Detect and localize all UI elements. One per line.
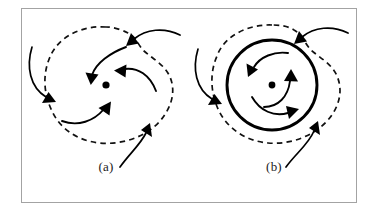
inner-spiral-arrowhead-b-1: [284, 69, 298, 82]
outer-inflow-arrowhead-b-3: [309, 121, 320, 135]
inner-spiral-arrowhead-a-2: [114, 65, 127, 78]
inner-spiral-arc-a-2: [124, 69, 156, 91]
outer-inflow-arc-b-1: [195, 49, 212, 99]
outer-inflow-arrowhead-a-2: [126, 33, 139, 46]
outer-inflow-arc-b-2: [302, 28, 348, 37]
panel-b-caption: (b): [190, 159, 358, 175]
figure-frame: (a): [21, 8, 357, 203]
outer-inflow-arrowhead-a-1: [42, 92, 56, 103]
fixed-point-b: [269, 82, 276, 89]
outer-inflow-arc-a-1: [29, 47, 46, 97]
fixed-point-a: [102, 81, 109, 88]
panel-b: (b): [190, 9, 358, 204]
inner-spiral-arc-b-1: [264, 81, 290, 107]
outer-inflow-arrowhead-b-2: [294, 31, 307, 44]
inner-spiral-arrowhead-b-2: [247, 64, 259, 78]
inner-spiral-arrowhead-b-3: [286, 106, 299, 119]
inner-spiral-arc-a-3: [62, 109, 104, 123]
inner-spiral-arc-b-2: [254, 53, 288, 67]
outer-inflow-arrowhead-b-1: [208, 94, 222, 105]
panel-a-diagram: [22, 9, 190, 177]
panel-a: (a): [22, 9, 190, 204]
trapping-region-boundary-b: [212, 25, 340, 143]
figure-root: (a): [0, 0, 379, 213]
panel-b-diagram: [190, 9, 358, 177]
inner-spiral-arrowhead-a-1: [86, 73, 99, 86]
panel-a-caption: (a): [22, 159, 190, 175]
outer-inflow-arc-a-2: [134, 30, 180, 39]
